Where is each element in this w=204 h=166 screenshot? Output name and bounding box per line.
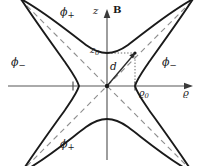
z-axis-label: z — [93, 6, 98, 16]
axis-group — [8, 9, 193, 160]
phi-symbol-bottom: ϕ — [60, 138, 68, 151]
figure-canvas — [0, 0, 204, 166]
equipotential-label-phi-plus-bottom: ϕ+ — [60, 139, 75, 152]
rho0-tick-label: ϱ0 — [139, 88, 149, 100]
z0-tick-label: z0 — [90, 45, 99, 57]
rho-axis-label: ϱ — [183, 88, 189, 98]
point-dot-icon — [133, 51, 136, 54]
phi-sign-bottom: + — [68, 142, 75, 152]
phi-symbol-left: ϕ — [11, 56, 19, 69]
z-axis-arrowhead-icon — [104, 9, 111, 18]
z0-subscript: 0 — [95, 49, 99, 57]
rho0-subscript: 0 — [145, 92, 149, 100]
displacement-vector-label: d — [110, 61, 117, 72]
phi-symbol-right: ϕ — [162, 56, 170, 69]
phi-sign-right: − — [170, 60, 177, 70]
equipotential-label-phi-minus-left: ϕ− — [11, 57, 26, 70]
phi-symbol-top: ϕ — [60, 6, 68, 19]
equipotential-label-phi-plus-top: ϕ+ — [60, 7, 75, 20]
magnetic-field-label: B — [113, 5, 121, 15]
hyperbolic-potential-figure: ϕ+ ϕ− ϕ− ϕ+ z B ϱ z0 ϱ0 d — [0, 0, 204, 166]
equipotential-label-phi-minus-right: ϕ− — [162, 57, 177, 70]
origin-dot-icon — [105, 84, 109, 88]
phi-sign-top: + — [68, 10, 75, 20]
phi-sign-left: − — [19, 60, 26, 70]
